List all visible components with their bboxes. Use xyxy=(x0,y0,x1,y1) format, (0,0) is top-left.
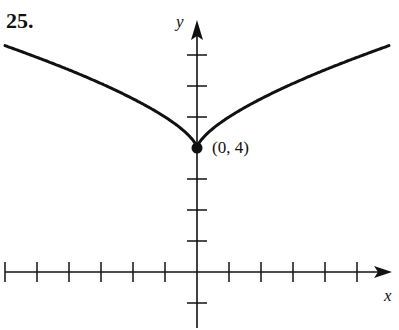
tick-marks xyxy=(5,55,357,303)
x-axis-label: x xyxy=(384,286,392,306)
point-label: (0, 4) xyxy=(212,138,249,158)
y-axis-label: y xyxy=(176,12,184,32)
graph xyxy=(0,0,399,330)
point-marker xyxy=(192,143,203,154)
